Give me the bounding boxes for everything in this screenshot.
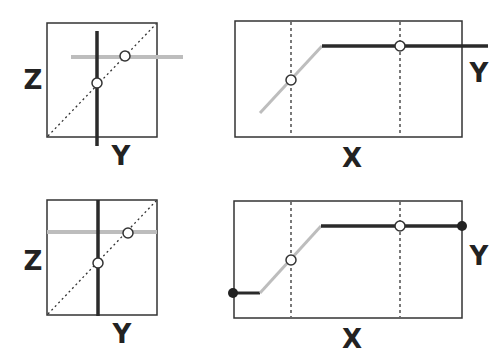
panel-frame — [234, 201, 462, 318]
y-axis-label: Y — [469, 58, 490, 88]
open-circle-marker — [286, 255, 296, 265]
open-circle-marker — [395, 221, 405, 231]
open-circle-marker — [286, 75, 296, 85]
panel-bottom-right: Y X — [228, 201, 490, 354]
panel-top-right: Y X — [235, 21, 490, 173]
panel-bottom-left: Z Y — [24, 200, 157, 349]
open-circle-marker — [92, 78, 102, 88]
open-circle-marker — [123, 228, 133, 238]
y-axis-label: Y — [111, 141, 132, 171]
panel-frame — [47, 200, 157, 315]
y-axis-label: Y — [469, 241, 490, 271]
x-axis-label: X — [342, 143, 362, 173]
y-axis-label: Y — [112, 319, 133, 349]
panel-frame — [235, 21, 462, 137]
diagonal-dashed-line — [48, 24, 156, 136]
diagonal-dashed-line — [48, 201, 156, 314]
open-circle-marker — [395, 41, 405, 51]
open-circle-marker — [93, 258, 103, 268]
z-axis-label: Z — [24, 246, 43, 276]
filled-dot-marker — [228, 288, 238, 298]
panel-top-left: Z Y — [24, 23, 183, 171]
x-axis-label: X — [342, 324, 362, 354]
z-axis-label: Z — [24, 65, 43, 95]
panel-frame — [47, 23, 157, 137]
filled-dot-marker — [457, 221, 467, 231]
open-circle-marker — [120, 51, 130, 61]
